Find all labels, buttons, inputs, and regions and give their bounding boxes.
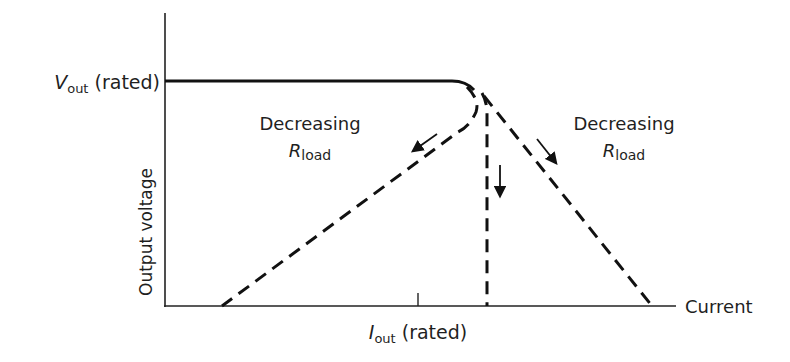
y-tick-label: Vout (rated)	[54, 71, 160, 96]
x-axis-label: Current	[685, 296, 753, 317]
current-limit-diagram: Vout (rated) Output voltage Iout (rated)…	[0, 0, 790, 362]
arrow-right-icon	[537, 139, 556, 163]
constant-voltage-line	[165, 81, 474, 90]
constant-current-line	[482, 93, 487, 306]
y-axis-label: Output voltage	[136, 168, 156, 296]
right-annotation-line2: Rload	[603, 140, 645, 163]
left-annotation-line2: Rload	[289, 140, 331, 163]
right-annotation-line1: Decreasing	[573, 113, 674, 134]
x-tick-label: Iout (rated)	[369, 321, 467, 346]
left-annotation-line1: Decreasing	[259, 113, 360, 134]
